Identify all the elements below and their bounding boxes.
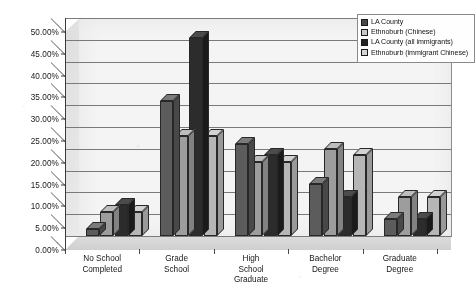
legend-item-3: Ethnoburb (immigrant Chinese) — [361, 49, 472, 57]
bar — [384, 219, 397, 236]
bar-front-face — [86, 229, 99, 236]
x-axis-tick — [363, 249, 364, 254]
y-axis-tick-label: 5.00% — [35, 224, 59, 233]
bar-group — [86, 18, 143, 236]
y-axis-tick-label: 30.00% — [31, 115, 59, 124]
y-axis-tick — [61, 97, 66, 98]
bar — [235, 144, 248, 236]
bar-front-face — [235, 144, 248, 236]
legend-label: LA County — [371, 18, 403, 26]
y-axis-tick-label: 35.00% — [31, 93, 59, 102]
bar-front-face — [384, 219, 397, 236]
y-axis-tick-label: 50.00% — [31, 28, 59, 37]
x-axis-tick — [288, 249, 289, 254]
legend-label: LA County (all immigrants) — [371, 38, 453, 46]
bar-right-face — [262, 155, 269, 236]
x-axis-label: No School Completed — [65, 254, 139, 275]
bar-right-face — [291, 155, 298, 236]
y-axis-tick-label: 45.00% — [31, 49, 59, 58]
bar-front-face — [309, 184, 322, 236]
x-axis-label: High School Graduate — [214, 254, 288, 286]
bar-right-face — [351, 190, 358, 236]
bar — [86, 229, 99, 236]
legend-item-1: Ethnoburb (Chinese) — [361, 28, 472, 36]
legend-label: Ethnoburb (immigrant Chinese) — [371, 49, 468, 57]
y-axis-tick — [61, 53, 66, 54]
y-axis-tick-label: 40.00% — [31, 71, 59, 80]
x-axis-tick — [214, 249, 215, 254]
y-axis-tick — [61, 32, 66, 33]
y-axis-tick-label: 0.00% — [35, 246, 59, 255]
bar-front-face — [160, 101, 173, 236]
x-axis-tick — [139, 249, 140, 254]
legend-swatch-icon — [361, 29, 368, 36]
x-axis-labels: No School CompletedGrade SchoolHigh Scho… — [65, 254, 451, 300]
legend-swatch-icon — [361, 49, 368, 56]
y-axis-tick-label: 25.00% — [31, 137, 59, 146]
bar-right-face — [248, 137, 255, 236]
x-axis-label: Graduate Degree — [363, 254, 437, 275]
bar-right-face — [188, 129, 195, 236]
bar-right-face — [366, 148, 373, 236]
y-axis-tick — [61, 228, 66, 229]
bar — [160, 101, 173, 236]
chart-legend: LA County Ethnoburb (Chinese) LA County … — [357, 14, 475, 63]
bar-right-face — [440, 190, 447, 236]
legend-swatch-icon — [361, 19, 368, 26]
gridline — [65, 236, 451, 237]
y-axis-tick — [61, 184, 66, 185]
x-axis-tick — [65, 249, 66, 254]
plot-floor — [65, 236, 451, 251]
legend-item-0: LA County — [361, 18, 472, 26]
legend-swatch-icon — [361, 39, 368, 46]
legend-label: Ethnoburb (Chinese) — [371, 28, 436, 36]
bar — [309, 184, 322, 236]
bar-right-face — [202, 31, 209, 236]
y-axis-tick — [61, 141, 66, 142]
x-axis-label: Grade School — [139, 254, 213, 275]
bar-chart: 0.00%5.00%10.00%15.00%20.00%25.00%30.00%… — [0, 0, 476, 304]
bar-right-face — [337, 142, 344, 236]
y-axis-tick — [61, 75, 66, 76]
y-axis-tick — [61, 119, 66, 120]
y-axis-tick-label: 15.00% — [31, 180, 59, 189]
y-axis-tick-label: 20.00% — [31, 158, 59, 167]
legend-item-2: LA County (all immigrants) — [361, 38, 472, 46]
y-axis: 0.00%5.00%10.00%15.00%20.00%25.00%30.00%… — [65, 18, 66, 250]
bar-right-face — [217, 129, 224, 236]
bar-right-face — [277, 148, 284, 236]
y-axis-tick — [61, 162, 66, 163]
x-axis-tick — [437, 249, 438, 254]
x-axis-label: Bachelor Degree — [288, 254, 362, 275]
y-axis-tick — [61, 206, 66, 207]
bar-right-face — [322, 177, 329, 236]
bar-group — [160, 18, 217, 236]
y-axis-tick-label: 10.00% — [31, 202, 59, 211]
bar-right-face — [411, 190, 418, 236]
bar-right-face — [173, 94, 180, 236]
bar-group — [235, 18, 292, 236]
